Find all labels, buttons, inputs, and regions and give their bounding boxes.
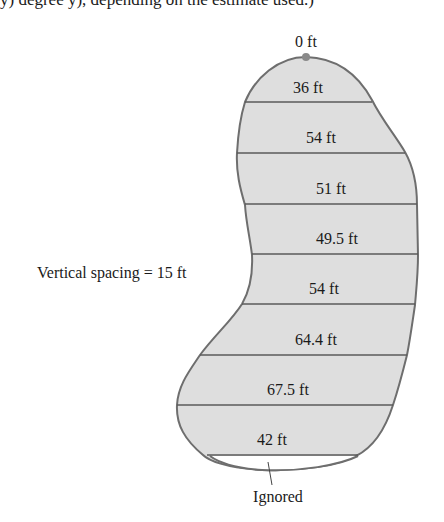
top-point-dot [302, 53, 310, 61]
width-label-8: 42 ft [257, 431, 287, 448]
width-label-7: 67.5 ft [267, 381, 309, 398]
ignored-label: Ignored [253, 488, 303, 506]
width-label-2: 54 ft [306, 129, 336, 146]
vertical-spacing-label: Vertical spacing = 15 ft [37, 264, 187, 282]
top-label: 0 ft [295, 33, 317, 50]
width-label-6: 64.4 ft [295, 331, 337, 348]
pond-diagram: 0 ft 36 ft 54 ft 51 ft 49.5 ft 54 ft 64.… [0, 0, 444, 522]
pond-outline [177, 57, 418, 470]
width-label-3: 51 ft [316, 180, 346, 197]
width-label-5: 54 ft [309, 280, 339, 297]
width-label-4: 49.5 ft [316, 230, 358, 247]
width-label-1: 36 ft [293, 79, 323, 96]
